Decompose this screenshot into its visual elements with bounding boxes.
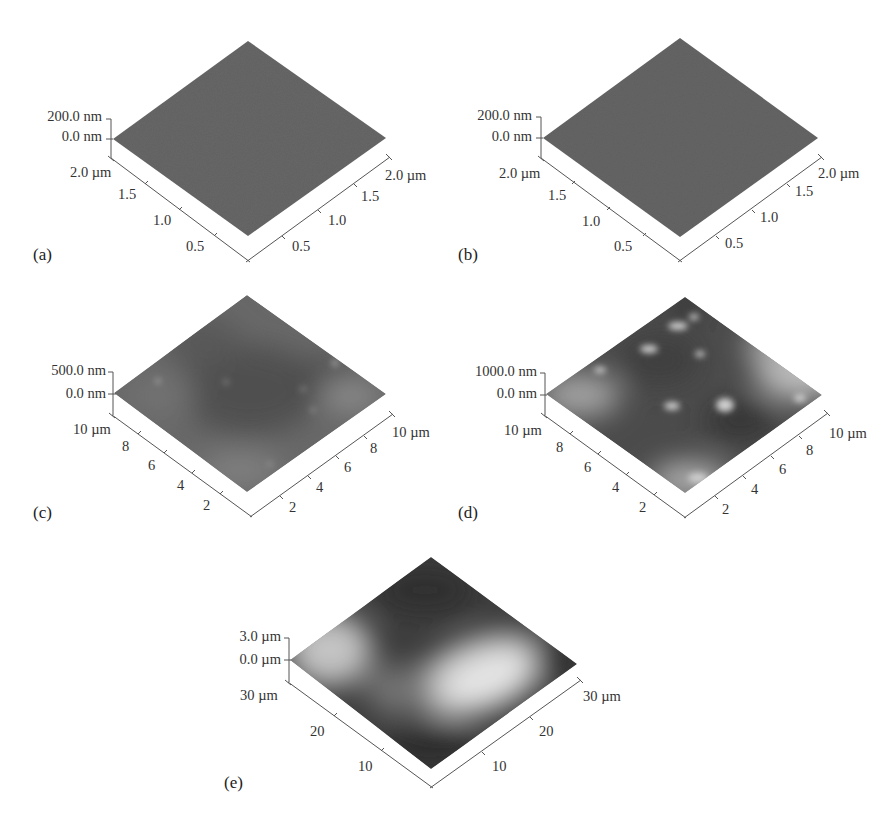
left-tick-label: 2.0 µm xyxy=(70,164,112,180)
left-tick-label: 2 xyxy=(203,497,210,513)
panel-label: (b) xyxy=(458,245,478,264)
right-tick-label: 10 xyxy=(492,758,507,774)
left-tick-label: 1.0 xyxy=(153,212,171,228)
panel-a: 200.0 nm 0.0 nm 2.0 µm 1.5 1.0 0.5 2.0 µ… xyxy=(33,41,427,264)
right-tick-label: 1.5 xyxy=(795,183,813,199)
z-top-label: 1000.0 nm xyxy=(475,363,538,379)
panel-label: (d) xyxy=(458,503,478,522)
z-bottom-label: 0.0 µm xyxy=(240,651,282,667)
panel-label: (c) xyxy=(33,503,52,522)
right-tick-label: 20 xyxy=(539,723,554,739)
left-tick-label: 6 xyxy=(584,459,591,475)
left-tick-label: 0.5 xyxy=(186,238,204,254)
right-tick-label: 2 xyxy=(722,501,729,517)
right-tick-label: 8 xyxy=(806,442,813,458)
left-tick-label: 4 xyxy=(177,477,185,493)
left-tick-label: 2.0 µm xyxy=(499,165,541,181)
z-bottom-label: 0.0 nm xyxy=(492,128,533,144)
right-tick-label: 10 µm xyxy=(829,425,867,441)
left-tick-label: 30 µm xyxy=(240,687,278,703)
left-tick-label: 1.0 xyxy=(582,213,600,229)
surface-e xyxy=(288,557,580,769)
right-tick-label: 2.0 µm xyxy=(818,165,860,181)
right-tick-label: 4 xyxy=(316,479,324,495)
z-top-label: 200.0 nm xyxy=(47,108,103,124)
panel-label: (e) xyxy=(224,773,243,792)
left-tick-label: 6 xyxy=(148,457,155,473)
left-tick-label: 0.5 xyxy=(614,238,632,254)
z-bottom-label: 0.0 nm xyxy=(62,128,103,144)
right-tick-label: 2.0 µm xyxy=(385,167,427,183)
afm-figure: 200.0 nm 0.0 nm 2.0 µm 1.5 1.0 0.5 2.0 µ… xyxy=(0,0,895,821)
right-tick-label: 1.0 xyxy=(760,209,778,225)
panel-e: 3.0 µm 0.0 µm 30 µm 20 10 30 µm 20 10 (e… xyxy=(224,557,621,792)
right-tick-label: 1.0 xyxy=(328,212,346,228)
left-tick-label: 8 xyxy=(122,438,129,454)
z-top-label: 200.0 nm xyxy=(477,107,533,123)
left-tick-label: 10 xyxy=(358,758,373,774)
left-tick-label: 1.5 xyxy=(548,187,566,203)
right-tick-label: 30 µm xyxy=(583,688,621,704)
right-tick-label: 1.5 xyxy=(361,188,379,204)
left-tick-label: 20 xyxy=(310,723,325,739)
surface-b xyxy=(543,38,818,237)
panel-c: 500.0 nm 0.0 nm 10 µm 8 6 4 2 10 µm 8 6 … xyxy=(33,295,430,522)
right-tick-label: 8 xyxy=(370,440,377,456)
surface-a xyxy=(113,41,386,236)
right-tick-label: 6 xyxy=(779,461,786,477)
z-bottom-label: 0.0 nm xyxy=(66,385,107,401)
left-tick-label: 10 µm xyxy=(73,421,111,437)
right-tick-label: 0.5 xyxy=(292,238,310,254)
z-bottom-label: 0.0 nm xyxy=(497,385,538,401)
panel-d: 1000.0 nm 0.0 nm 10 µm 8 6 4 2 10 µm 8 6… xyxy=(458,295,867,522)
panel-b: 200.0 nm 0.0 nm 2.0 µm 1.5 1.0 0.5 2.0 µ… xyxy=(458,38,860,264)
right-tick-label: 6 xyxy=(344,459,351,475)
left-tick-label: 2 xyxy=(639,499,646,515)
z-top-label: 3.0 µm xyxy=(240,628,282,644)
left-tick-label: 4 xyxy=(612,479,620,495)
panel-label: (a) xyxy=(33,245,52,264)
right-tick-label: 10 µm xyxy=(392,424,430,440)
z-top-label: 500.0 nm xyxy=(51,362,107,378)
right-tick-label: 4 xyxy=(751,481,759,497)
right-tick-label: 0.5 xyxy=(725,235,743,251)
left-tick-label: 1.5 xyxy=(118,186,136,202)
left-tick-label: 10 µm xyxy=(504,422,542,438)
left-tick-label: 8 xyxy=(556,439,563,455)
right-tick-label: 2 xyxy=(289,499,296,515)
